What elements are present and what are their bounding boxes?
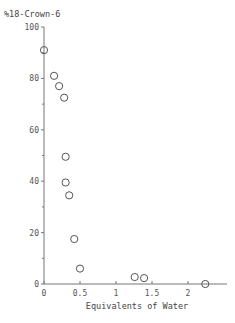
data-point-marker	[62, 179, 69, 186]
data-point-marker	[50, 72, 57, 79]
data-point-marker	[66, 192, 73, 199]
data-point-marker	[76, 265, 83, 272]
x-tick-label: 1.5	[145, 289, 160, 298]
y-tick-label: 20	[29, 229, 39, 238]
data-point-marker	[131, 273, 138, 280]
x-tick-label: 1	[114, 289, 119, 298]
y-tick-label: 0	[34, 280, 39, 289]
y-tick-label: 80	[29, 74, 39, 83]
data-points	[40, 47, 208, 288]
x-tick-label: 2	[186, 289, 191, 298]
y-axis-title: %18-Crown-6	[4, 9, 60, 19]
x-tick-label: 0	[42, 289, 47, 298]
y-tick-label: 100	[25, 23, 40, 32]
x-axis-title: Equivalents of Water	[86, 301, 188, 311]
data-point-marker	[61, 94, 68, 101]
x-axis: 00.511.52	[42, 281, 227, 298]
data-point-marker	[140, 274, 147, 281]
y-tick-label: 40	[29, 177, 39, 186]
x-tick-label: 0.5	[73, 289, 88, 298]
data-point-marker	[56, 83, 63, 90]
data-point-marker	[71, 235, 78, 242]
y-tick-label: 60	[29, 126, 39, 135]
data-point-marker	[62, 153, 69, 160]
scatter-chart: %18-Crown-6 020406080100 00.511.52 Equiv…	[0, 0, 235, 323]
y-axis: 020406080100	[25, 23, 44, 289]
